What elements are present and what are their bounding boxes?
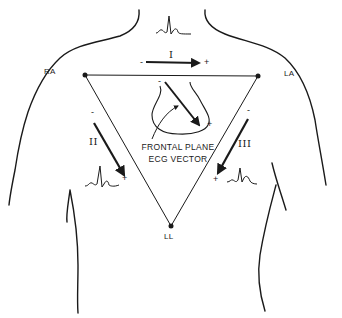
lead-iii-negative-sign: - [247,106,250,115]
electrode-ll-label: LL [164,232,174,241]
vector-caption: FRONTAL PLANE ECG VECTOR [128,141,228,165]
lead-iii-positive-sign: + [213,175,218,184]
neck-left-line [9,10,139,205]
heart-vector-positive-sign: + [207,120,212,129]
lead-i-positive-sign: + [204,58,209,67]
electrode-la-dot [256,74,261,79]
heart-outline [152,82,209,134]
heart-vector-arrow [165,82,199,125]
lead-ii-label: II [89,136,98,147]
lead-ii-arrow [94,123,124,175]
right-arm-inner-line [259,163,286,311]
lead-ii-positive-sign: + [122,174,127,183]
lead-i-arrow [146,62,199,63]
lead-ii-waveform-icon [85,166,119,187]
left-arm-inner-line [67,190,78,313]
vector-caption-line1: FRONTAL PLANE [128,141,228,153]
lead-i-negative-sign: - [140,58,143,67]
electrode-ll-dot [169,224,174,229]
electrode-ra-label: RA [44,67,56,76]
lead-i-waveform-icon [156,16,191,34]
lead-ii-negative-sign: - [91,108,94,117]
heart-vector-negative-sign: - [158,77,161,86]
electrode-ra-dot [83,73,88,78]
lead-i-label: I [169,49,173,60]
lead-iii-waveform-icon [227,168,257,184]
lead-iii-label: III [238,138,251,149]
vector-caption-line2: ECG VECTOR [128,153,228,165]
electrode-la-label: LA [284,69,294,78]
